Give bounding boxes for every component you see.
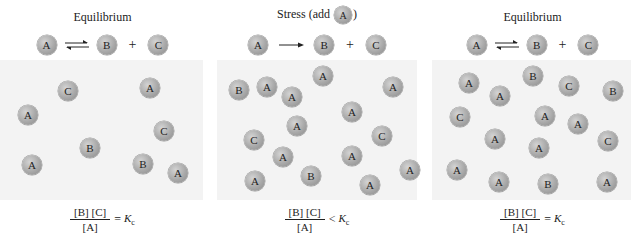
denominator: [A] — [513, 220, 528, 233]
molecule-b: B — [97, 35, 117, 55]
kc-symbol: Kc — [124, 212, 135, 227]
reaction-quotient-expression: [B] [C][A] < Kc — [217, 206, 417, 233]
molecule-c: C — [154, 121, 174, 141]
numerator: [B] [C] — [500, 206, 540, 220]
equilibrium-arrows-icon — [493, 38, 521, 52]
kc-symbol: Kc — [338, 212, 349, 227]
relation-sign: < — [329, 212, 336, 227]
plus-sign: + — [559, 37, 567, 53]
molecule-a: A — [273, 147, 293, 167]
molecule-b: B — [80, 138, 100, 158]
reaction-equation: A B + C — [0, 34, 205, 56]
molecule-b: B — [538, 174, 558, 194]
relation-sign: = — [114, 212, 121, 227]
panel-title: Equilibrium — [432, 10, 633, 25]
plus-sign: + — [346, 37, 354, 53]
molecule-c: C — [450, 107, 470, 127]
molecule-a: A — [400, 160, 420, 180]
denominator: [A] — [83, 220, 98, 233]
molecule-a: A — [568, 114, 588, 134]
molecule-a: A — [447, 160, 467, 180]
panel-title: Stress (add A) — [217, 6, 417, 24]
molecule-a: A — [485, 129, 505, 149]
kc-symbol: Kc — [554, 212, 565, 227]
reaction-equation: A B + C — [432, 34, 633, 56]
molecule-a: A — [334, 6, 352, 24]
molecule-a: A — [383, 77, 403, 97]
molecule-b: B — [314, 35, 334, 55]
molecule-a: A — [168, 163, 188, 183]
molecule-a: A — [140, 78, 160, 98]
molecule-b: B — [603, 81, 623, 101]
molecule-container: CAACBABA — [0, 60, 203, 200]
molecule-a: A — [459, 73, 479, 93]
molecule-c: C — [372, 126, 392, 146]
molecule-a: A — [282, 87, 302, 107]
molecule-a: A — [245, 171, 265, 191]
molecule-a: A — [313, 66, 333, 86]
molecule-a: A — [597, 172, 617, 192]
denominator: [A] — [297, 220, 312, 233]
molecule-a: A — [342, 146, 362, 166]
molecule-a: A — [529, 138, 549, 158]
panel-title: Equilibrium — [0, 10, 205, 25]
equilibrium-expression: [B] [C][A] = Kc — [0, 206, 205, 233]
molecule-container: BAAAAAACCAAAABA — [217, 60, 417, 200]
molecule-container: ABCBACAAAACAABA — [432, 60, 631, 200]
numerator: [B] [C] — [285, 206, 325, 220]
molecule-a: A — [360, 175, 380, 195]
molecule-c: C — [598, 131, 618, 151]
molecule-a: A — [22, 155, 42, 175]
equilibrium-arrows-icon — [63, 38, 91, 52]
molecule-a: A — [489, 172, 509, 192]
molecule-c: C — [366, 35, 386, 55]
molecule-a: A — [535, 106, 555, 126]
molecule-b: B — [527, 35, 547, 55]
equilibrium-expression: [B] [C][A] = Kc — [432, 206, 633, 233]
molecule-a: A — [342, 102, 362, 122]
relation-sign: = — [544, 212, 551, 227]
molecule-a: A — [248, 35, 268, 55]
panel-stress: Stress (add A) A B + C BAAAAAACCAAAABA [… — [217, 0, 417, 245]
plus-sign: + — [129, 37, 137, 53]
forward-arrow-icon — [274, 38, 308, 52]
panel-equilibrium-restored: Equilibrium A B + C ABCBACAAAACAABA [B] … — [432, 0, 633, 245]
molecule-a: A — [490, 86, 510, 106]
molecule-b: B — [301, 166, 321, 186]
molecule-b: B — [523, 66, 543, 86]
molecule-c: C — [58, 81, 78, 101]
molecule-c: C — [578, 35, 598, 55]
molecule-a: A — [287, 116, 307, 136]
panel-equilibrium-initial: Equilibrium A B + C CAACBABA [B] [C][A] … — [0, 0, 205, 245]
molecule-a: A — [257, 77, 277, 97]
molecule-c: C — [559, 76, 579, 96]
reaction-equation: A B + C — [217, 34, 417, 56]
molecule-a: A — [37, 35, 57, 55]
molecule-b: B — [133, 154, 153, 174]
molecule-b: B — [229, 80, 249, 100]
molecule-c: C — [148, 35, 168, 55]
molecule-c: C — [244, 130, 264, 150]
molecule-a: A — [467, 35, 487, 55]
numerator: [B] [C] — [70, 206, 110, 220]
molecule-a: A — [18, 105, 38, 125]
